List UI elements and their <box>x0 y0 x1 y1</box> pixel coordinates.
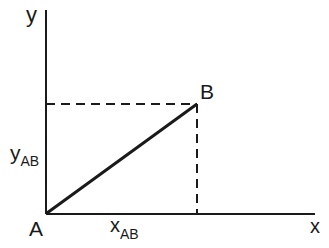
x-axis-label: x <box>310 215 320 237</box>
diagram-canvas: y x A B xAB yAB <box>0 0 329 248</box>
y-axis-label: y <box>26 2 37 27</box>
point-b-label: B <box>200 80 214 103</box>
y-projection-label: yAB <box>10 141 39 169</box>
segment-ab <box>47 104 197 213</box>
point-a-label: A <box>29 217 43 240</box>
x-projection-label: xAB <box>110 214 139 242</box>
